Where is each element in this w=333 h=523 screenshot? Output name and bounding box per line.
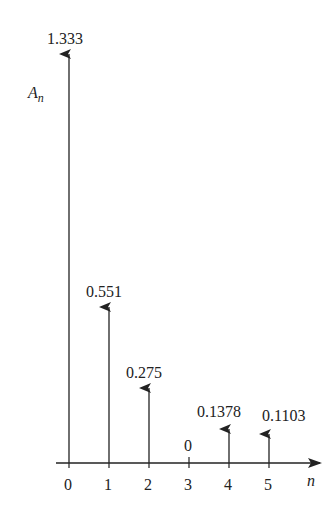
tick-label-5: 5 <box>264 476 272 494</box>
value-label-n2: 0.275 <box>126 364 162 382</box>
value-label-n0: 1.333 <box>47 30 83 48</box>
y-axis-label: An <box>28 84 44 106</box>
tick-label-4: 4 <box>224 476 232 494</box>
value-label-n1: 0.551 <box>86 283 122 301</box>
stem-plot <box>0 0 333 523</box>
value-label-n4: 0.1378 <box>197 403 241 421</box>
x-axis-label: n <box>307 472 315 490</box>
tick-label-0: 0 <box>64 476 72 494</box>
value-label-n3: 0 <box>184 437 192 455</box>
tick-label-1: 1 <box>104 476 112 494</box>
tick-label-3: 3 <box>184 476 192 494</box>
tick-label-2: 2 <box>144 476 152 494</box>
value-label-n5: 0.1103 <box>262 407 305 425</box>
